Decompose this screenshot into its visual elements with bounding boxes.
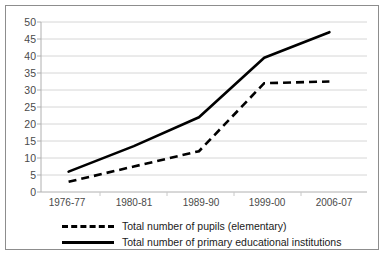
solid-line-swatch: [60, 236, 116, 248]
series-line-pupils-elementary: [69, 82, 330, 182]
legend-item-primary-institutions[interactable]: Total number of primary educational inst…: [60, 235, 341, 249]
legend-item-pupils-elementary[interactable]: Total number of pupils (elementary): [60, 219, 287, 233]
x-axis-ticks: [100, 192, 301, 196]
legend-item-label: Total number of pupils (elementary): [122, 220, 287, 232]
dashed-line-swatch: [60, 220, 116, 232]
gridlines: [41, 22, 367, 175]
chart-figure: 50 45 40 35 30 25 20 15 10 5 0 1976-77 1…: [0, 0, 385, 257]
legend-item-label: Total number of primary educational inst…: [122, 236, 341, 248]
y-axis-ticks: [37, 22, 41, 192]
